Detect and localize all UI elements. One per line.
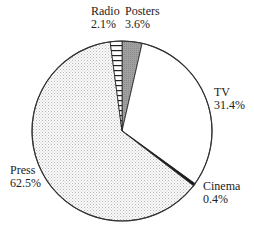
label-posters-pct: 3.6% bbox=[125, 18, 160, 31]
label-posters: Posters 3.6% bbox=[125, 5, 160, 31]
pie-slices bbox=[32, 41, 212, 221]
label-press-pct: 62.5% bbox=[10, 177, 41, 190]
label-radio-pct: 2.1% bbox=[91, 18, 120, 31]
label-press: Press 62.5% bbox=[10, 164, 41, 190]
label-radio: Radio 2.1% bbox=[91, 5, 120, 31]
label-cinema: Cinema 0.4% bbox=[203, 180, 240, 206]
label-tv: TV 31.4% bbox=[214, 86, 245, 112]
label-tv-pct: 31.4% bbox=[214, 99, 245, 112]
label-cinema-pct: 0.4% bbox=[203, 193, 240, 206]
